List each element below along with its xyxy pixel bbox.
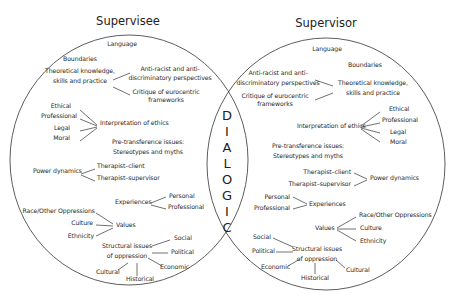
value-item-ethnicity: Ethnicity xyxy=(68,232,94,240)
structural-item-social: Social xyxy=(174,234,192,242)
ethics-item-legal: Legal xyxy=(390,128,406,136)
boundaries-label: Boundaries xyxy=(63,55,97,63)
critique-label-line2: frameworks xyxy=(257,100,293,108)
ethics-item-professional: Professional xyxy=(41,112,77,120)
therapist-supervisor-label: Therapist–supervisor xyxy=(97,174,160,182)
dialogic-letter: L xyxy=(223,156,230,171)
value-item-ethnicity: Ethnicity xyxy=(360,237,386,245)
experience-item-personal: Personal xyxy=(169,192,195,200)
language-label: Language xyxy=(107,40,137,48)
structural-issues-label-line1: Structural issues xyxy=(102,242,152,250)
theory-label-line2: skills and practice xyxy=(53,77,107,85)
supervisor-heading: Supervisor xyxy=(295,16,356,30)
anti-racist-label-line1: Anti-racist and anti- xyxy=(140,65,199,73)
structural-item-economic: Economic xyxy=(160,263,189,271)
experiences-label: Experiences xyxy=(115,198,152,206)
critique-label-line2: frameworks xyxy=(148,96,184,104)
experience-item-professional: Professional xyxy=(168,203,204,211)
structural-item-political: Political xyxy=(171,248,194,256)
critique-label-line1: Critique of eurocentric xyxy=(132,88,199,96)
language-label: Language xyxy=(312,45,342,53)
structural-item-economic: Economic xyxy=(261,263,290,271)
value-item-culture: Culture xyxy=(71,219,93,227)
experience-item-professional: Professional xyxy=(254,204,290,212)
pre-transference-label-line2: Stereotypes and myths xyxy=(113,148,183,156)
dialogic-letter: I xyxy=(225,124,229,139)
dialogic-letter: D xyxy=(222,108,232,123)
therapist-client-label: Therapist–client xyxy=(303,168,351,176)
experience-item-personal: Personal xyxy=(264,193,290,201)
critique-label-line1: Critique of eurocentric xyxy=(241,92,308,100)
pre-transference-label-line1: Pre-transference issues: xyxy=(272,142,344,150)
value-item-culture: Culture xyxy=(360,224,382,232)
ethics-item-moral: Moral xyxy=(390,138,407,146)
ethics-item-professional: Professional xyxy=(382,116,418,124)
experiences-label: Experiences xyxy=(309,200,346,208)
interpretation-of-ethics-label: Interpretation of ethics xyxy=(297,122,366,130)
supervisee-heading: Supervisee xyxy=(96,14,160,28)
anti-racist-label-line2: discriminatory perspectives xyxy=(128,74,211,82)
dialogic-letter: A xyxy=(223,140,232,155)
structural-item-historical: Historical xyxy=(301,274,329,282)
structural-item-social: Social xyxy=(253,233,271,241)
ethics-item-ethical: Ethical xyxy=(51,102,71,110)
ethics-item-legal: Legal xyxy=(54,124,70,132)
value-item-race: Race/Other Oppressions xyxy=(22,207,95,215)
anti-racist-label-line1: Anti-racist and anti- xyxy=(248,69,307,77)
power-dynamics-label: Power dynamics xyxy=(33,167,82,175)
anti-racist-label-line2: discriminatory perspectives xyxy=(236,79,319,87)
dialogic-letter: C xyxy=(222,220,231,235)
dialogic-letter: G xyxy=(222,188,232,203)
venn-diagram: Supervisee Supervisor D I A L O G I C La… xyxy=(0,0,458,304)
theory-label-line1: Theoretical knowledge, xyxy=(338,79,408,87)
pre-transference-label-line2: Stereotypes and myths xyxy=(273,152,343,160)
dialogic-letter: O xyxy=(222,172,232,187)
structural-issues-label-line2: of oppression xyxy=(297,255,337,263)
structural-item-cultural: Cultural xyxy=(346,266,370,274)
therapist-supervisor-label: Therapist–supervisor xyxy=(288,180,351,188)
values-label: Values xyxy=(116,221,136,229)
theory-label-line1: Theoretical knowledge, xyxy=(45,67,115,75)
power-dynamics-label: Power dynamics xyxy=(370,174,419,182)
boundaries-label: Boundaries xyxy=(348,61,382,69)
structural-issues-label-line1: Structural issues xyxy=(292,245,342,253)
therapist-client-label: Therapist–client xyxy=(97,162,145,170)
interpretation-of-ethics-label: Interpretation of ethics xyxy=(100,119,169,127)
structural-item-political: Political xyxy=(252,247,275,255)
values-label: Values xyxy=(315,224,335,232)
theory-label-line2: skills and practice xyxy=(346,89,400,97)
structural-item-historical: Historical xyxy=(126,275,154,283)
ethics-item-moral: Moral xyxy=(53,134,70,142)
pre-transference-label-line1: Pre-transference issues: xyxy=(112,138,184,146)
dialogic-letter: I xyxy=(225,204,229,219)
ethics-item-ethical: Ethical xyxy=(389,105,409,113)
structural-item-cultural: Cultural xyxy=(96,268,120,276)
structural-issues-label-line2: of oppression xyxy=(107,252,147,260)
value-item-race: Race/Other Oppressions xyxy=(359,211,432,219)
